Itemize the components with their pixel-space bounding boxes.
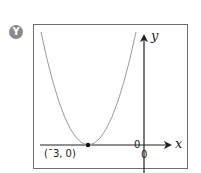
vertex-point [86,143,90,147]
origin-label-left: 0 [134,139,140,150]
parabola-curve [41,32,136,145]
vertex-label: (¯3, 0) [44,148,76,159]
x-axis-label: x [175,136,182,151]
graph-plot [0,0,201,173]
origin-label-below: 0 [141,149,147,160]
y-axis-label: y [151,28,158,43]
